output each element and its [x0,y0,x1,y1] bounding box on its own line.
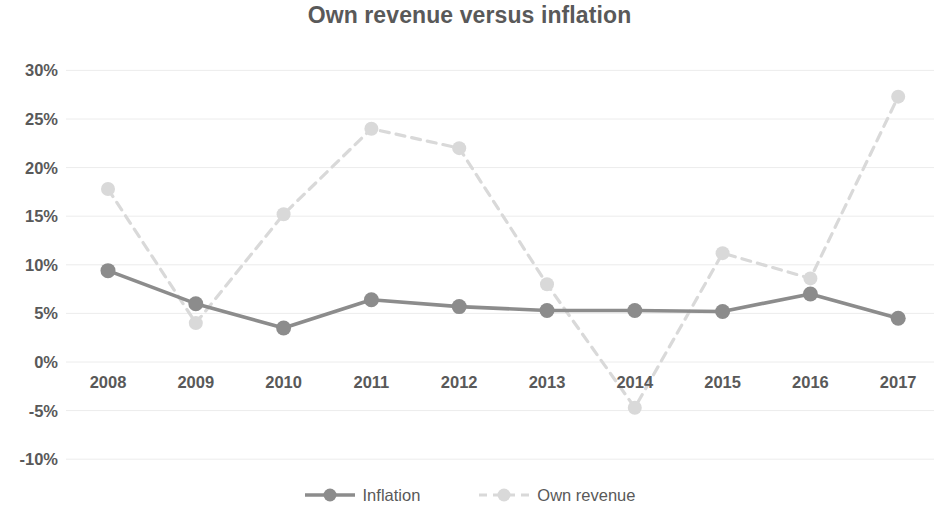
x-axis-tick-label: 2017 [854,374,939,391]
data-point[interactable] [189,316,203,330]
y-axis-tick-label: 0% [0,354,58,371]
y-axis-tick-label: 25% [0,111,58,128]
chart-container: Own revenue versus inflation 30%25%20%15… [0,0,939,514]
data-point[interactable] [364,292,379,307]
plot-area [0,0,939,514]
data-point[interactable] [452,141,466,155]
data-point[interactable] [716,246,730,260]
y-axis-tick-label: 10% [0,257,58,274]
x-axis-tick-label: 2010 [240,374,328,391]
series-line-own-revenue [108,97,898,408]
y-axis-tick-label: -10% [0,451,58,468]
y-axis-tick-label: 5% [0,305,58,322]
legend-label: Inflation [363,487,421,504]
data-point[interactable] [277,207,291,221]
legend-entry-own-revenue[interactable]: Own revenue [478,487,635,504]
data-point[interactable] [452,299,467,314]
legend-label: Own revenue [537,487,635,504]
data-point[interactable] [891,90,905,104]
y-axis-tick-label: 20% [0,160,58,177]
x-axis-tick-label: 2016 [766,374,854,391]
data-point[interactable] [540,303,555,318]
data-point[interactable] [276,320,291,335]
x-axis-tick-label: 2011 [327,374,415,391]
series-line-inflation [108,271,898,328]
x-axis-tick-label: 2013 [503,374,591,391]
data-point[interactable] [540,277,554,291]
y-axis-tick-label: 30% [0,62,58,79]
gridlines-group [66,70,934,459]
y-axis-tick-label: -5% [0,403,58,420]
x-axis-tick-label: 2009 [152,374,240,391]
data-point[interactable] [803,286,818,301]
data-point[interactable] [188,296,203,311]
series-group [101,90,906,415]
x-axis-tick-label: 2008 [64,374,152,391]
legend-marker-icon [478,487,530,503]
y-axis-tick-label: 15% [0,208,58,225]
data-point[interactable] [101,263,116,278]
data-point[interactable] [364,122,378,136]
x-axis-tick-label: 2012 [415,374,503,391]
data-point[interactable] [803,271,817,285]
data-point[interactable] [627,303,642,318]
data-point[interactable] [715,304,730,319]
x-axis-tick-label: 2015 [679,374,767,391]
legend-entry-inflation[interactable]: Inflation [304,487,421,504]
chart-legend: InflationOwn revenue [0,487,939,504]
x-axis-tick-label: 2014 [591,374,679,391]
data-point[interactable] [891,311,906,326]
legend-marker-icon [304,487,356,503]
data-point[interactable] [628,401,642,415]
data-point[interactable] [101,182,115,196]
